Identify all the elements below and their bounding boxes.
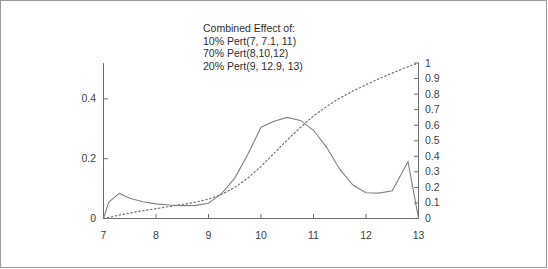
chart-annotation: Combined Effect of: 10% Pert(7, 7.1, 11)… (203, 22, 303, 72)
right-y-tick-label-10: 1 (425, 58, 455, 69)
left-y-tick-label-0: 0 (62, 213, 96, 224)
x-tick-label-13: 13 (405, 230, 433, 241)
x-tick-label-12: 12 (352, 230, 380, 241)
right-y-tick-label-6: 0.6 (425, 120, 455, 131)
x-axis-ticks (104, 214, 419, 219)
left-y-tick-label-2: 0.4 (62, 93, 96, 104)
x-tick-label-9: 9 (195, 230, 223, 241)
axes-group (103, 63, 419, 219)
right-y-tick-label-0: 0 (425, 213, 455, 224)
x-tick-label-10: 10 (247, 230, 275, 241)
left-y-tick-label-1: 0.2 (62, 153, 96, 164)
annotation-line-0: Combined Effect of: (203, 22, 303, 35)
right-y-tick-label-2: 0.2 (425, 182, 455, 193)
right-y-tick-label-5: 0.5 (425, 135, 455, 146)
x-tick-label-8: 8 (142, 230, 170, 241)
annotation-line-2: 70% Pert(8,10,12) (203, 47, 303, 60)
x-tick-label-11: 11 (300, 230, 328, 241)
density-curve (104, 117, 419, 218)
annotation-line-1: 10% Pert(7, 7.1, 11) (203, 35, 303, 48)
right-y-tick-label-8: 0.8 (425, 89, 455, 100)
annotation-line-3: 20% Pert(9, 12.9, 13) (203, 60, 303, 73)
x-tick-label-7: 7 (90, 230, 118, 241)
cumulative-curve (104, 63, 419, 219)
right-y-tick-label-9: 0.9 (425, 73, 455, 84)
right-y-tick-label-1: 0.1 (425, 197, 455, 208)
right-y-tick-label-4: 0.4 (425, 151, 455, 162)
right-y-tick-label-3: 0.3 (425, 166, 455, 177)
right-y-tick-label-7: 0.7 (425, 104, 455, 115)
left-y-axis-ticks (104, 99, 109, 219)
